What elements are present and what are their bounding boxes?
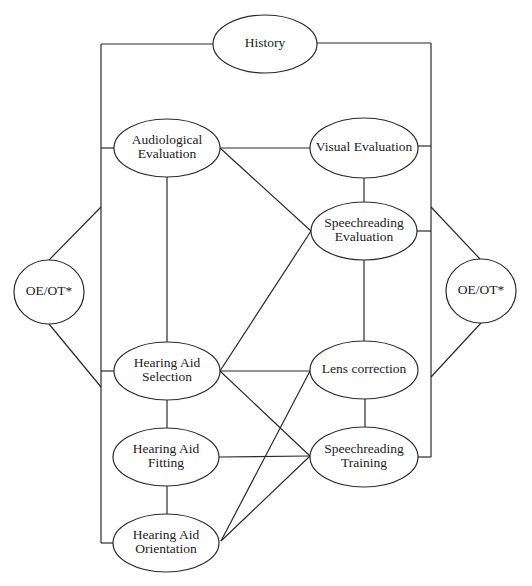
- node-hearing-aid-orientation: Hearing AidOrientation: [113, 514, 219, 572]
- diagram-nodes: HistoryAudiologicalEvaluationVisual Eval…: [14, 15, 516, 572]
- node-speechreading-training: SpeechreadingTraining: [310, 427, 418, 487]
- node-lens-correction: Lens correction: [310, 341, 418, 399]
- node-audiological-evaluation: AudiologicalEvaluation: [114, 119, 220, 177]
- node-label: Evaluation: [138, 146, 197, 161]
- node-label: Visual Evaluation: [316, 139, 413, 154]
- node-label: Evaluation: [335, 229, 394, 244]
- node-label: Lens correction: [322, 361, 407, 376]
- edge-oe-ot-right-to-right-bus: [431, 207, 480, 259]
- node-label: Hearing Aid: [133, 441, 200, 456]
- edge-hearing-aid-selection-to-speechreading-evaluation: [220, 231, 311, 371]
- node-visual-evaluation: Visual Evaluation: [310, 118, 418, 178]
- rehabilitation-flow-diagram: HistoryAudiologicalEvaluationVisual Eval…: [0, 0, 532, 586]
- node-hearing-aid-fitting: Hearing AidFitting: [113, 428, 219, 486]
- edge-oe-ot-left-to-left-bus: [49, 324, 101, 387]
- connector-lines: [49, 43, 481, 543]
- node-label: Hearing Aid: [134, 355, 201, 370]
- node-label: Fitting: [148, 455, 184, 470]
- node-label: Orientation: [135, 541, 197, 556]
- edge-oe-ot-left-to-left-bus: [49, 207, 101, 260]
- edge-audiological-evaluation-to-speechreading-evaluation: [220, 148, 311, 231]
- node-label: Speechreading: [324, 215, 404, 230]
- node-label: Audiological: [132, 132, 203, 147]
- node-speechreading-evaluation: SpeechreadingEvaluation: [311, 202, 417, 260]
- node-oe-ot-left: OE/OT*: [14, 260, 84, 324]
- edge-oe-ot-right-to-right-bus: [431, 323, 481, 377]
- node-label: Selection: [142, 369, 192, 384]
- node-hearing-aid-selection: Hearing AidSelection: [114, 342, 220, 400]
- node-label: Hearing Aid: [133, 527, 200, 542]
- node-history: History: [213, 15, 317, 73]
- edge-hearing-aid-orientation-to-speechreading-training: [221, 456, 310, 541]
- node-oe-ot-right: OE/OT*: [446, 259, 516, 323]
- node-label: Training: [341, 455, 387, 470]
- node-label: OE/OT*: [458, 282, 505, 297]
- node-label: Speechreading: [324, 441, 404, 456]
- node-label: History: [245, 35, 286, 50]
- edge-hearing-aid-selection-to-speechreading-training: [220, 371, 310, 456]
- node-label: OE/OT*: [26, 283, 73, 298]
